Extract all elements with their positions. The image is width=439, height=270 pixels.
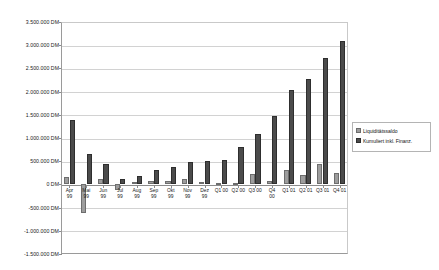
- x-tick-line-1: Q2 00: [232, 188, 245, 193]
- bar-0-7[interactable]: [182, 179, 187, 184]
- legend-item-label: Kumuliert inkl. Finanz.: [363, 138, 412, 144]
- chart-legend: Liquiditätssaldo Kumuliert inkl. Finanz.: [352, 122, 431, 152]
- y-axis-tick-label: 2.500.000 DM: [1, 65, 59, 71]
- y-axis-tick-label: 1.500.000 DM: [1, 112, 59, 118]
- x-tick-line-1: Dez: [200, 188, 209, 193]
- y-axis: 3.500.000 DM3.000.000 DM2.500.000 DM2.00…: [0, 0, 59, 270]
- bar-0-2[interactable]: [98, 179, 103, 184]
- x-tick-line-1: Mai: [82, 188, 90, 193]
- bar-0-5[interactable]: [148, 181, 153, 185]
- bar-0-0[interactable]: [64, 177, 69, 184]
- x-tick-line-1: Okt: [167, 188, 175, 193]
- legend-item[interactable]: Liquiditätssaldo: [356, 126, 428, 135]
- y-axis-tick-label: 2.000.000 DM: [1, 89, 59, 95]
- x-tick-line-1: Apr: [66, 188, 74, 193]
- bar-1-8[interactable]: [205, 161, 210, 184]
- x-tick-line-1: Q2 01: [299, 188, 312, 193]
- bar-1-10[interactable]: [238, 147, 243, 184]
- y-axis-tick-label: 0 DM: [1, 181, 59, 187]
- bars-layer: [61, 22, 348, 254]
- x-tick-line-1: Aug: [133, 188, 142, 193]
- legend-item-label: Liquiditätssaldo: [363, 128, 397, 134]
- bar-1-14[interactable]: [306, 79, 311, 184]
- bar-1-7[interactable]: [188, 162, 193, 184]
- y-axis-tick-label: 3.500.000 DM: [1, 19, 59, 25]
- y-axis-tick-mark: [59, 254, 62, 255]
- bar-1-3[interactable]: [120, 179, 125, 185]
- bar-0-4[interactable]: [132, 182, 137, 185]
- bar-0-13[interactable]: [284, 170, 289, 185]
- bar-1-11[interactable]: [255, 134, 260, 184]
- bar-0-16[interactable]: [334, 173, 339, 184]
- bar-1-12[interactable]: [272, 116, 277, 184]
- bar-1-4[interactable]: [137, 176, 142, 185]
- x-tick-line-1: Q4 01: [333, 188, 346, 193]
- x-tick-line-1: Q3 00: [248, 188, 261, 193]
- x-tick-line-1: Jun: [99, 188, 107, 193]
- y-axis-tick-label: -1.500.000 DM: [1, 251, 59, 257]
- bar-0-12[interactable]: [267, 181, 272, 185]
- y-axis-tick-label: -1.000.000 DM: [1, 228, 59, 234]
- bar-1-16[interactable]: [340, 41, 345, 185]
- legend-swatch-icon: [356, 138, 361, 143]
- x-tick-line-1: Sep: [149, 188, 158, 193]
- bar-1-6[interactable]: [171, 167, 176, 184]
- bar-1-15[interactable]: [323, 58, 328, 184]
- y-axis-tick-label: 500.000 DM: [1, 158, 59, 164]
- bar-1-1[interactable]: [87, 154, 92, 184]
- x-tick-line-2: 00: [261, 194, 283, 200]
- x-axis-tick-label: Q4 01: [329, 188, 351, 194]
- bar-1-5[interactable]: [154, 170, 159, 184]
- x-tick-line-1: Q1 01: [282, 188, 295, 193]
- y-axis-tick-label: 3.000.000 DM: [1, 42, 59, 48]
- x-tick-line-1: Q4: [269, 188, 276, 193]
- bar-1-13[interactable]: [289, 90, 294, 184]
- bar-1-9[interactable]: [222, 160, 227, 184]
- x-tick-line-1: Jul: [117, 188, 123, 193]
- x-tick-line-2: 99: [194, 194, 216, 200]
- bar-0-14[interactable]: [300, 175, 305, 184]
- chart-container: 3.500.000 DM3.000.000 DM2.500.000 DM2.00…: [0, 0, 439, 270]
- y-axis-tick-label: -500.000 DM: [1, 205, 59, 211]
- bar-1-0[interactable]: [70, 120, 75, 184]
- legend-swatch-icon: [356, 128, 361, 133]
- y-axis-tick-label: 1.000.000 DM: [1, 135, 59, 141]
- x-axis: Apr99Mai99Jun99Jul99Aug99Sep99Okt99Nov99…: [61, 185, 348, 215]
- bar-0-15[interactable]: [317, 164, 322, 184]
- bar-0-8[interactable]: [199, 182, 204, 185]
- x-tick-line-1: Nov: [183, 188, 192, 193]
- bar-1-2[interactable]: [103, 164, 108, 184]
- legend-item[interactable]: Kumuliert inkl. Finanz.: [356, 136, 428, 145]
- bar-0-11[interactable]: [250, 174, 255, 185]
- bar-0-6[interactable]: [165, 181, 170, 184]
- x-tick-line-1: Q3 01: [316, 188, 329, 193]
- x-tick-line-1: Q1 00: [215, 188, 228, 193]
